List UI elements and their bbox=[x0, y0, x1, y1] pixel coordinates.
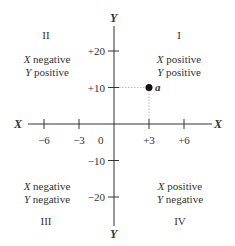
quadrant-III-x-text: X negative bbox=[23, 180, 71, 192]
quadrant-II-y-var: Y bbox=[25, 66, 33, 78]
quadrant-I-y-var: Y bbox=[157, 66, 165, 78]
y-tick-label: +10 bbox=[88, 82, 106, 94]
quadrant-III-x-sign: negative bbox=[33, 180, 70, 192]
quadrant-I-x-sign: positive bbox=[166, 53, 201, 65]
quadrant-IV-y-sign: negative bbox=[166, 193, 203, 205]
coordinate-plane: X X Y Y 0 −6−3+3+6 +20+10−10−20 a II X n… bbox=[0, 0, 235, 246]
x-tick-label: +3 bbox=[143, 134, 155, 146]
quadrant-II-y-text: Y positive bbox=[25, 66, 69, 78]
point-a-group: a bbox=[119, 81, 161, 120]
quadrant-IV-y-text: Y negative bbox=[157, 193, 203, 205]
x-tick-label: +6 bbox=[178, 134, 190, 146]
quadrant-I-y-text: Y positive bbox=[157, 66, 201, 78]
quadrant-I-numeral: I bbox=[177, 29, 181, 41]
point-a-label: a bbox=[155, 81, 161, 93]
quadrant-III-numeral: III bbox=[41, 215, 52, 227]
quadrant-II-y-sign: positive bbox=[34, 66, 69, 78]
quadrant-I: I X positive Y positive bbox=[156, 29, 201, 78]
quadrant-III-y-sign: negative bbox=[33, 193, 70, 205]
y-axis-label-top: Y bbox=[110, 11, 119, 25]
x-axis-label-right: X bbox=[213, 117, 223, 131]
quadrant-III: X negative Y negative III bbox=[23, 180, 71, 227]
quadrant-II-x-text: X negative bbox=[23, 53, 71, 65]
point-a-marker bbox=[146, 84, 153, 91]
y-axis-label-bottom: Y bbox=[110, 227, 119, 241]
quadrant-IV-x-text: X positive bbox=[157, 180, 202, 192]
y-tick-label: −10 bbox=[88, 155, 106, 167]
quadrant-II: II X negative Y positive bbox=[23, 29, 71, 78]
quadrant-II-x-sign: negative bbox=[33, 53, 70, 65]
quadrant-IV-y-var: Y bbox=[157, 193, 165, 205]
y-tick-label: −20 bbox=[88, 191, 106, 203]
quadrant-II-numeral: II bbox=[42, 29, 50, 41]
quadrant-IV-numeral: IV bbox=[174, 215, 186, 227]
quadrant-III-x-var: X bbox=[23, 180, 32, 192]
x-tick-label: −6 bbox=[38, 134, 50, 146]
quadrant-I-y-sign: positive bbox=[166, 66, 201, 78]
origin-label: 0 bbox=[98, 134, 104, 146]
quadrant-I-x-text: X positive bbox=[156, 53, 201, 65]
quadrant-I-x-var: X bbox=[156, 53, 165, 65]
y-tick-label: +20 bbox=[88, 45, 106, 57]
x-tick-label: −3 bbox=[73, 134, 85, 146]
quadrant-IV-x-sign: positive bbox=[167, 180, 202, 192]
quadrant-IV-x-var: X bbox=[157, 180, 166, 192]
quadrant-III-y-var: Y bbox=[24, 193, 32, 205]
quadrant-III-y-text: Y negative bbox=[24, 193, 70, 205]
quadrant-II-x-var: X bbox=[23, 53, 32, 65]
quadrant-IV: X positive Y negative IV bbox=[157, 180, 203, 227]
x-axis-label-left: X bbox=[13, 117, 23, 131]
